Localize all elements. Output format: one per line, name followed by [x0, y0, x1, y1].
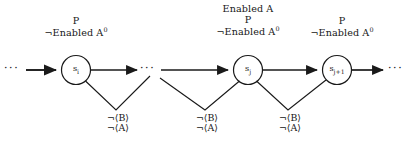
guard-chevron-2 [160, 78, 240, 110]
annotation-i-line-p: P [18, 16, 134, 27]
annotation-i-superscript: 0 [103, 26, 107, 34]
annotation-above-state-i: P ¬Enabled A0 [18, 16, 134, 38]
annotation-i-not-enabled-text: ¬Enabled A [44, 27, 103, 38]
ellipsis-middle: ··· [140, 62, 155, 75]
guard-label-3-line-a: ¬⟨A⟩ [260, 123, 320, 133]
guard-label-3: ¬⟨B⟩ ¬⟨A⟩ [260, 113, 320, 133]
guard-chevron-3 [257, 80, 327, 110]
state-label-j: sj [231, 64, 265, 75]
annotation-j1-line-not-enabled: ¬Enabled A0 [284, 27, 400, 39]
guard-label-2: ¬⟨B⟩ ¬⟨A⟩ [177, 113, 237, 133]
annotation-j1-not-enabled-text: ¬Enabled A [310, 27, 369, 38]
guard-label-1: ¬⟨B⟩ ¬⟨A⟩ [88, 113, 148, 133]
state-label-j-subscript: j [249, 68, 251, 75]
annotation-j-superscript: 0 [275, 25, 279, 33]
annotation-j1-line-p: P [284, 16, 400, 27]
annotation-i-line-not-enabled: ¬Enabled A0 [18, 27, 134, 39]
guard-label-2-line-a: ¬⟨A⟩ [177, 123, 237, 133]
annotation-j-line-enabled: Enabled A [190, 4, 306, 15]
annotation-j1-superscript: 0 [369, 26, 373, 34]
figure-canvas: ··· ··· ··· si sj sj+1 P ¬Enabled A0 Ena… [0, 0, 412, 146]
guard-label-1-line-a: ¬⟨A⟩ [88, 123, 148, 133]
guard-chevron-1 [86, 76, 151, 110]
state-label-i-subscript: i [77, 68, 79, 75]
annotation-above-state-j1: P ¬Enabled A0 [284, 16, 400, 38]
state-label-j1-subscript: j+1 [334, 68, 345, 75]
ellipsis-right: ··· [388, 62, 403, 75]
state-label-i: si [59, 64, 93, 75]
ellipsis-left: ··· [4, 62, 19, 75]
annotation-j-not-enabled-text: ¬Enabled A [216, 26, 275, 37]
state-label-j1: sj+1 [319, 64, 355, 75]
